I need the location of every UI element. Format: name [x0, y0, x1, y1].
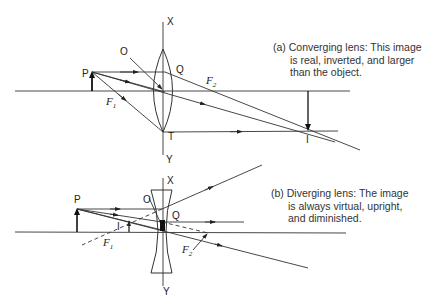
- label-o-a: O: [120, 46, 128, 57]
- label-y-b: Y: [163, 286, 170, 297]
- label-f2-a: F2: [205, 74, 217, 89]
- caption-b: (b) Diverging lens: The image is always …: [271, 187, 409, 225]
- label-x-a: X: [167, 16, 174, 27]
- caption-a-line1: (a) Converging lens: This image: [273, 41, 422, 54]
- caption-b-line3: and diminished.: [271, 212, 409, 225]
- label-q-a: Q: [176, 64, 184, 75]
- caption-a-line2: is real, inverted, and larger: [273, 54, 422, 67]
- label-x-b: X: [167, 175, 174, 186]
- label-f1-b: F1: [102, 236, 113, 251]
- caption-a: (a) Converging lens: This image is real,…: [273, 41, 422, 79]
- diverging-lens: [151, 190, 172, 273]
- label-o-b: O: [143, 194, 151, 205]
- label-q-b: Q: [172, 210, 180, 221]
- label-y-a: Y: [166, 154, 173, 165]
- label-i-b: I: [117, 221, 120, 232]
- caption-a-line3: than the object.: [273, 66, 422, 79]
- label-p-b: P: [74, 194, 81, 205]
- caption-b-line2: is always virtual, upright,: [271, 200, 409, 213]
- optical-axis-b: [15, 232, 346, 233]
- caption-b-line1: (b) Diverging lens: The image: [271, 187, 409, 200]
- dashed-f2-extension: [162, 222, 208, 233]
- label-i-a: I: [306, 134, 309, 145]
- label-t-a: T: [168, 131, 174, 142]
- label-f2-b: F2: [181, 243, 193, 258]
- panel-b-diverging: [15, 165, 346, 286]
- lens-ray-diagram: X Y P O Q T F1 F2 I: [0, 0, 424, 298]
- label-p-a: P: [82, 68, 89, 79]
- label-f1-a: F1: [105, 95, 116, 110]
